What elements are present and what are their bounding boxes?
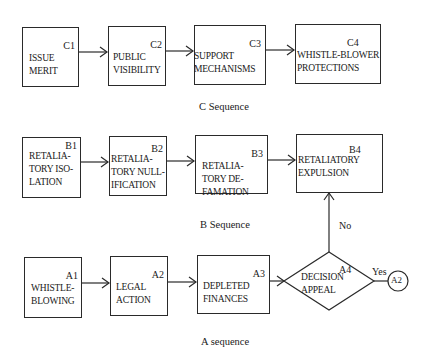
decision-yes-label: Yes [372,266,387,277]
node-id: C1 [63,40,75,51]
node-label: LEGAL ACTION [116,281,151,307]
node-label: SUPPORT MECHANISMS [194,50,255,76]
node-id: A3 [253,268,265,279]
node-label: WHISTLE-BLOWER PROTECTIONS [297,49,379,75]
node-id: C3 [249,38,261,49]
node-c4: C4 WHISTLE-BLOWER PROTECTIONS [295,24,381,84]
sequence-caption-c: C Sequence [199,101,249,112]
node-label: RETALIA- TORY DE- FAMATION [202,160,249,199]
node-a4-label: DECISION APPEAL [301,271,344,297]
node-c3: C3 SUPPORT MECHANISMS [194,25,266,85]
node-b4: B4 RETALIATORY EXPULSION [296,134,383,193]
node-label: DEPLETED FINANCES [203,280,249,306]
node-b3: B3 RETALIA- TORY DE- FAMATION [195,135,268,194]
connector-circle-label: A2 [391,275,402,285]
node-label: RETALIA- TORY NULL- IFICATION [111,153,165,192]
node-a1: A1 WHISTLE- BLOWING [24,257,82,318]
node-b2: B2 RETALIA- TORY NULL- IFICATION [109,136,167,196]
node-label: RETALIA- TORY ISO- LATION [29,150,73,189]
node-label: ISSUE MERIT [29,52,58,78]
node-c2: C2 PUBLIC VISIBILITY [108,26,166,86]
node-id: B3 [251,148,263,159]
node-a3: A3 DEPLETED FINANCES [197,255,270,314]
node-a2: A2 LEGAL ACTION [110,256,168,316]
decision-no-label: No [339,220,351,231]
node-id: C4 [347,37,359,48]
node-label: WHISTLE- BLOWING [31,282,74,308]
node-label: PUBLIC VISIBILITY [113,51,161,77]
node-id: C2 [150,39,162,50]
node-c1: C1 ISSUE MERIT [22,27,79,87]
sequence-caption-a: A sequence [201,336,249,347]
sequence-caption-b: B Sequence [200,219,250,230]
node-id: A2 [152,269,164,280]
node-label: RETALIATORY EXPULSION [298,154,360,180]
node-id: A1 [66,270,78,281]
node-b1: B1 RETALIA- TORY ISO- LATION [22,137,81,198]
